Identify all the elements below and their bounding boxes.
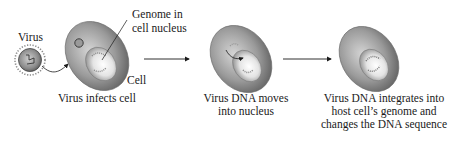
- infection-arrow: [42, 64, 68, 72]
- cell-label: Cell: [127, 73, 146, 87]
- step-3-caption-line2: host cell’s genome and: [312, 104, 456, 118]
- genome-label-line1: Genome in: [132, 7, 183, 21]
- virus-particle: [15, 45, 45, 75]
- step-3-caption-line1: Virus DNA integrates into: [312, 91, 456, 105]
- step-2-caption-line2: into nucleus: [196, 104, 296, 118]
- cell-3: [327, 15, 411, 103]
- step-3-caption-line3: changes the DNA sequence: [312, 117, 456, 131]
- step-1-caption: Virus infects cell: [58, 91, 136, 105]
- genome-label-line2: cell nucleus: [132, 21, 187, 35]
- cell-1: [52, 9, 142, 103]
- virus-label: Virus: [18, 30, 43, 44]
- step-2-caption-line1: Virus DNA moves: [196, 91, 296, 105]
